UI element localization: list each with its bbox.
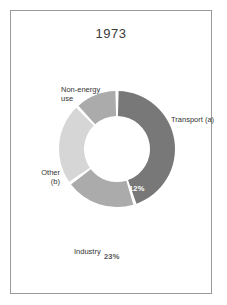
category-label-other-line1: Other xyxy=(32,168,60,177)
slice-value-other: 23% xyxy=(104,252,120,261)
category-label-transport: Transport (a) xyxy=(171,115,214,124)
category-label-nonenergy-line1: Non-energy xyxy=(61,85,107,94)
chart-title: 1973 xyxy=(11,26,211,41)
figure-frame: 1973 45% 20% 23% 12% Transport (a) Indus… xyxy=(10,10,212,294)
donut-slice xyxy=(71,169,133,207)
donut-slice-group xyxy=(59,91,175,207)
donut-chart: 45% 20% 23% 12% xyxy=(57,89,177,209)
slice-value-transport: 45% xyxy=(180,242,196,251)
donut-slice xyxy=(59,108,94,182)
category-label-industry: Industry xyxy=(74,247,101,256)
category-label-nonenergy: Non-energy use xyxy=(61,85,107,103)
slice-value-nonenergy: 12% xyxy=(129,184,145,193)
donut-svg xyxy=(57,89,177,209)
category-label-nonenergy-line2: use xyxy=(61,94,107,103)
category-label-other: Other (b) xyxy=(32,168,60,186)
category-label-other-line2: (b) xyxy=(32,177,60,186)
